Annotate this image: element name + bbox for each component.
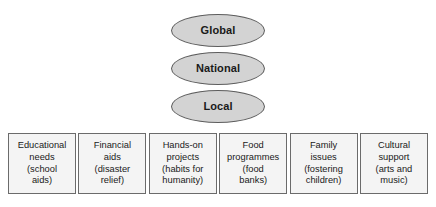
level-label-global: Global [201,25,236,36]
activity-line: (school [27,164,57,176]
activity-box-cultural-support[interactable]: Cultural support (arts and music) [360,133,428,194]
activity-line: Educational [18,140,67,152]
activity-line: (habits for [162,164,203,176]
activity-line: banks) [239,175,267,187]
activity-line: aids [104,152,121,164]
level-ellipse-national[interactable]: National [171,52,265,85]
activity-box-row: Educational needs (school aids) Financia… [8,133,428,194]
level-label-national: National [196,63,240,74]
activity-box-food-programmes[interactable]: Food programmes (food banks) [219,133,287,194]
activity-line: (arts and [376,164,413,176]
activity-box-hands-on-projects[interactable]: Hands-on projects (habits for humanity) [149,133,217,194]
activity-box-educational-needs[interactable]: Educational needs (school aids) [8,133,76,194]
activity-line: (disaster [95,164,131,176]
activity-line: (food [243,164,264,176]
activity-line: Financial [94,140,131,152]
activity-line: aids) [32,175,52,187]
activity-line: humanity) [162,175,203,187]
activity-line: children) [306,175,342,187]
activity-line: needs [29,152,54,164]
activity-line: support [378,152,409,164]
activity-line: Cultural [378,140,410,152]
level-label-local: Local [203,101,232,112]
activity-line: projects [167,152,200,164]
level-ellipse-global[interactable]: Global [171,14,265,47]
activity-line: issues [310,152,336,164]
activity-line: relief) [101,175,124,187]
activity-line: Hands-on [163,140,203,152]
activity-box-financial-aids[interactable]: Financial aids (disaster relief) [78,133,146,194]
activity-line: (fostering [304,164,343,176]
activity-box-family-issues[interactable]: Family issues (fostering children) [290,133,358,194]
activity-line: Food [243,140,264,152]
diagram-canvas: Global National Local Educational needs … [0,0,436,207]
activity-line: music) [380,175,407,187]
activity-line: programmes [227,152,279,164]
level-ellipse-stack: Global National Local [0,0,436,128]
level-ellipse-local[interactable]: Local [171,90,265,123]
activity-line: Family [310,140,337,152]
